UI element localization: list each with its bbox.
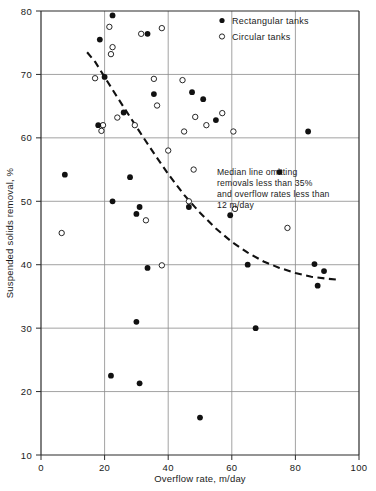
data-point (227, 212, 233, 218)
legend-label-circular: Circular tanks (232, 32, 291, 42)
median-line-annotation: Median line omitting removals less than … (217, 167, 330, 210)
data-point (134, 319, 140, 325)
data-point (145, 265, 151, 271)
chart-figure: 0204060801001020304050607080 Rectangular… (0, 0, 376, 491)
data-point (132, 122, 137, 127)
data-point (189, 89, 195, 95)
data-point (137, 204, 143, 210)
x-tick-label-80: 80 (290, 462, 301, 473)
data-point (305, 129, 311, 135)
legend-label-rectangular: Rectangular tanks (232, 16, 309, 26)
data-point (92, 76, 97, 81)
data-point (186, 199, 191, 204)
x-tick-label-60: 60 (226, 462, 237, 473)
data-point (145, 31, 151, 37)
scatter-plot-svg: 0204060801001020304050607080 Rectangular… (0, 0, 376, 491)
data-point (200, 96, 206, 102)
data-point (107, 24, 112, 29)
data-point (127, 174, 133, 180)
y-tick-label-80: 80 (21, 6, 32, 17)
annotation-line-4: 12 m/day (217, 200, 254, 210)
data-point (151, 76, 156, 81)
data-point (321, 268, 327, 274)
grid-lines (41, 11, 359, 455)
data-point (115, 115, 120, 120)
data-point (137, 380, 143, 386)
data-point (159, 25, 164, 30)
data-point (186, 204, 192, 210)
data-point (97, 37, 103, 43)
data-point (285, 225, 290, 230)
data-point (312, 261, 318, 267)
data-point (151, 91, 157, 97)
data-point (95, 122, 101, 128)
annotation-line-3: and overflow rates less than (217, 189, 330, 199)
y-tick-label-60: 60 (21, 132, 32, 143)
data-point (102, 74, 108, 80)
data-point (220, 110, 225, 115)
data-point (110, 198, 116, 204)
data-point (166, 148, 171, 153)
data-point (159, 263, 164, 268)
data-point (253, 325, 259, 331)
tick-labels: 0204060801001020304050607080 (21, 6, 368, 474)
annotation-line-1: Median line omitting (217, 167, 297, 177)
data-point (180, 77, 185, 82)
data-point (231, 129, 236, 134)
data-point (191, 167, 196, 172)
data-point (245, 262, 251, 268)
data-point (121, 110, 127, 116)
data-point (197, 415, 203, 421)
annotation-line-2: removals less than 35% (217, 178, 313, 188)
y-tick-label-40: 40 (21, 259, 32, 270)
tick-marks (36, 11, 359, 460)
data-point (193, 114, 198, 119)
data-point (315, 283, 321, 289)
median-line (87, 52, 340, 280)
data-point (138, 31, 143, 36)
data-point (108, 373, 114, 379)
y-tick-label-50: 50 (21, 196, 32, 207)
x-axis-title: Overflow rate, m/day (154, 473, 246, 484)
data-point (99, 128, 104, 133)
data-point (59, 230, 64, 235)
y-axis-title: Suspended solids removal, % (4, 167, 15, 298)
data-point (110, 44, 115, 49)
data-point (143, 218, 148, 223)
data-point (154, 103, 159, 108)
y-tick-label-10: 10 (21, 450, 32, 461)
data-point (204, 122, 209, 127)
legend-marker-circular (219, 34, 224, 39)
x-tick-label-0: 0 (38, 462, 44, 473)
circular-tank-points (59, 24, 290, 268)
axis-lines (41, 11, 359, 455)
data-point (134, 211, 140, 217)
y-tick-label-70: 70 (21, 69, 32, 80)
data-point (62, 172, 68, 178)
data-point (181, 129, 186, 134)
x-tick-label-100: 100 (351, 462, 368, 473)
x-tick-label-20: 20 (99, 462, 110, 473)
data-point (108, 51, 113, 56)
y-tick-label-20: 20 (21, 386, 32, 397)
median-line-path (87, 52, 340, 280)
data-point (110, 13, 116, 19)
data-point (213, 117, 219, 123)
y-tick-label-30: 30 (21, 323, 32, 334)
legend-marker-rectangular (219, 18, 224, 23)
x-tick-label-40: 40 (163, 462, 174, 473)
